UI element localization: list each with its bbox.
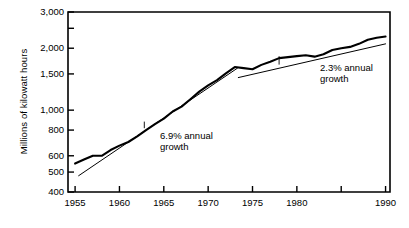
annotation-2-3-percent: 2.3% annual growth <box>320 62 373 84</box>
axis-ticks <box>68 12 386 192</box>
data-series <box>75 37 385 176</box>
annotation-6-9-percent: 6.9% annual growth <box>160 130 213 152</box>
plot-area <box>0 0 409 228</box>
plot-frame <box>68 12 390 192</box>
chart-figure: Millions of kilowatt hours 4005006008001… <box>0 0 409 228</box>
